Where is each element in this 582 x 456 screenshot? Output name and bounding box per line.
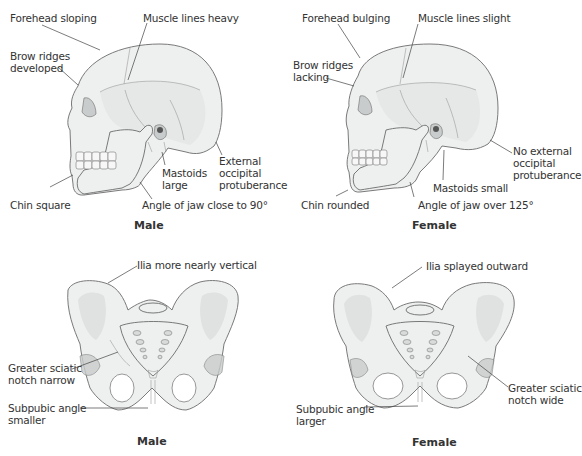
label-mastoids-small: Mastoids small: [433, 182, 508, 194]
label-external-occipital-line1: External: [219, 155, 261, 167]
label-forehead-sloping: Forehead sloping: [10, 12, 97, 24]
diagram-artwork: [0, 0, 582, 456]
label-brow-ridges-developed-line1: Brow ridges: [10, 50, 70, 62]
label-subpubic-angle-smaller-line1: Subpubic angle: [8, 402, 86, 414]
label-mastoids-large-line1: Mastoids: [162, 167, 207, 179]
label-subpubic-angle-smaller-line2: smaller: [8, 414, 45, 426]
label-sciatic-notch-wide-line1: Greater sciatic: [508, 382, 582, 394]
label-mastoids-large-line2: large: [162, 179, 188, 191]
label-ilia-more-nearly-vertical: Ilia more nearly vertical: [137, 259, 257, 271]
label-external-occipital-line2: occipital: [219, 167, 261, 179]
label-sciatic-notch-narrow-line1: Greater sciatic: [8, 362, 82, 374]
label-muscle-lines-heavy: Muscle lines heavy: [143, 12, 239, 24]
label-sciatic-notch-narrow-line2: notch narrow: [8, 374, 75, 386]
caption-male-pelvis: Male: [137, 435, 167, 448]
label-brow-ridges-lacking-line2: lacking: [293, 71, 329, 83]
label-angle-of-jaw-125: Angle of jaw over 125°: [418, 199, 534, 211]
label-ilia-splayed-outward: Ilia splayed outward: [426, 260, 528, 272]
caption-female-skull: Female: [412, 219, 457, 232]
label-subpubic-angle-larger-line2: larger: [296, 415, 326, 427]
caption-male-skull: Male: [134, 219, 164, 232]
label-brow-ridges-lacking-line1: Brow ridges: [293, 59, 353, 71]
label-no-external-occipital-line3: protuberance: [513, 169, 581, 181]
label-sciatic-notch-wide-line2: notch wide: [508, 394, 564, 406]
label-subpubic-angle-larger-line1: Subpubic angle: [296, 403, 374, 415]
male-pelvis-illustration: [68, 281, 239, 410]
label-no-external-occipital-line1: No external: [513, 145, 572, 157]
female-pelvis-illustration: [334, 283, 515, 408]
label-chin-rounded: Chin rounded: [301, 199, 369, 211]
label-muscle-lines-slight: Muscle lines slight: [418, 12, 510, 24]
label-chin-square: Chin square: [10, 199, 70, 211]
label-no-external-occipital-line2: occipital: [513, 157, 555, 169]
label-forehead-bulging: Forehead bulging: [302, 12, 390, 24]
label-external-occipital-line3: protuberance: [219, 179, 287, 191]
caption-female-pelvis: Female: [412, 436, 457, 449]
female-skull-illustration: [346, 44, 498, 192]
label-angle-of-jaw-90: Angle of jaw close to 90°: [142, 199, 268, 211]
label-brow-ridges-developed-line2: developed: [10, 62, 63, 74]
